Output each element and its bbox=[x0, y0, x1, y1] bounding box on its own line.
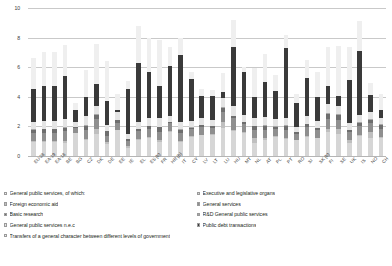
bar-segment bbox=[315, 138, 320, 156]
x-label-slot: EL bbox=[133, 158, 144, 184]
stacked-bar[interactable] bbox=[231, 20, 236, 156]
bar-segment bbox=[157, 40, 162, 86]
bar-segment bbox=[52, 121, 57, 128]
bar-segment bbox=[347, 132, 352, 139]
legend-left-item[interactable]: Transfers of a general character between… bbox=[4, 230, 195, 241]
bar-segment bbox=[115, 130, 120, 156]
stacked-bar[interactable] bbox=[305, 60, 310, 156]
stacked-bar[interactable] bbox=[73, 103, 78, 156]
bar-slot bbox=[102, 8, 113, 156]
stacked-bar[interactable] bbox=[284, 35, 289, 156]
bar-segment bbox=[305, 60, 310, 78]
x-label-slot: EA-19 bbox=[39, 158, 50, 184]
bar-slot bbox=[123, 8, 134, 156]
stacked-bar[interactable] bbox=[94, 44, 99, 156]
legend-label: R&D General public services bbox=[203, 211, 268, 217]
bar-segment bbox=[105, 101, 110, 125]
stacked-bar[interactable] bbox=[52, 52, 57, 156]
stacked-bar[interactable] bbox=[105, 61, 110, 156]
bar-segment bbox=[52, 86, 57, 122]
bar-segment bbox=[105, 144, 110, 156]
legend-left-item[interactable]: Basic research bbox=[4, 209, 195, 220]
stacked-bar[interactable] bbox=[210, 90, 215, 156]
stacked-bar[interactable] bbox=[242, 67, 247, 156]
legend-label: Public debt transactions bbox=[203, 222, 257, 228]
stacked-bar[interactable] bbox=[273, 75, 278, 156]
stacked-bar[interactable] bbox=[136, 26, 141, 156]
x-label-slot: PL bbox=[270, 158, 281, 184]
legend-label: Foreign economic aid bbox=[10, 201, 59, 207]
bar-slot bbox=[239, 8, 250, 156]
stacked-bar[interactable] bbox=[336, 46, 341, 156]
legend-right-item[interactable]: R&D General public services bbox=[197, 209, 388, 220]
x-label-slot: MT bbox=[239, 158, 250, 184]
bar-slot bbox=[175, 8, 186, 156]
bar-segment bbox=[336, 96, 341, 106]
x-label-slot: FR bbox=[154, 158, 165, 184]
stacked-bar[interactable] bbox=[294, 94, 299, 156]
stacked-bar[interactable] bbox=[379, 94, 384, 156]
stacked-bar[interactable] bbox=[178, 38, 183, 156]
bar-segment bbox=[178, 122, 183, 129]
stacked-bar[interactable] bbox=[368, 83, 373, 156]
bar-segment bbox=[199, 89, 204, 96]
bar-segment bbox=[273, 129, 278, 136]
bar-segment bbox=[326, 119, 331, 129]
bar-segment bbox=[63, 76, 68, 119]
stacked-bar[interactable] bbox=[189, 72, 194, 156]
stacked-bar[interactable] bbox=[42, 52, 47, 156]
stacked-bar[interactable] bbox=[168, 47, 173, 156]
bar-segment bbox=[368, 112, 373, 119]
legend-right-item[interactable]: General services bbox=[197, 199, 388, 210]
bar-slot bbox=[323, 8, 334, 156]
y-axis-tick-label: 10 bbox=[0, 5, 20, 11]
bar-slot bbox=[354, 8, 365, 156]
stacked-bar[interactable] bbox=[357, 21, 362, 156]
legend-left-item[interactable]: General public services n.e.c bbox=[4, 220, 195, 231]
bar-segment bbox=[284, 35, 289, 48]
legend-right-item[interactable]: Public debt transactions bbox=[197, 220, 388, 231]
bar-segment bbox=[147, 129, 152, 137]
plot-area: 0246810 bbox=[28, 8, 386, 156]
bar-segment bbox=[147, 138, 152, 156]
bar-segment bbox=[84, 116, 89, 125]
bar-segment bbox=[115, 123, 120, 130]
bar-segment bbox=[199, 127, 204, 135]
stacked-bar[interactable] bbox=[199, 89, 204, 156]
stacked-bar[interactable] bbox=[84, 70, 89, 156]
bar-slot bbox=[91, 8, 102, 156]
bar-segment bbox=[294, 134, 299, 141]
stacked-bar[interactable] bbox=[326, 47, 331, 156]
bar-slot bbox=[218, 8, 229, 156]
stacked-bar[interactable] bbox=[347, 47, 352, 156]
legend-swatch-icon bbox=[4, 202, 7, 205]
bar-segment bbox=[326, 86, 331, 104]
bar-segment bbox=[379, 138, 384, 156]
bar-segment bbox=[231, 20, 236, 47]
bar-slot bbox=[197, 8, 208, 156]
bar-segment bbox=[242, 115, 247, 122]
bar-segment bbox=[147, 118, 152, 125]
stacked-bar[interactable] bbox=[157, 40, 162, 156]
stacked-bar[interactable] bbox=[263, 54, 268, 156]
stacked-bar[interactable] bbox=[147, 38, 152, 156]
stacked-bar[interactable] bbox=[115, 94, 120, 156]
bar-segment bbox=[73, 110, 78, 122]
bar-segment bbox=[189, 129, 194, 136]
stacked-bar[interactable] bbox=[221, 73, 226, 156]
bar-segment bbox=[242, 124, 247, 133]
legend-left-item[interactable]: Foreign economic aid bbox=[4, 199, 195, 210]
stacked-bar[interactable] bbox=[252, 68, 257, 156]
stacked-bar[interactable] bbox=[31, 58, 36, 156]
stacked-bar[interactable] bbox=[63, 45, 68, 156]
x-label-slot: BG bbox=[70, 158, 81, 184]
bar-segment bbox=[147, 72, 152, 118]
bar-segment bbox=[189, 72, 194, 79]
bar-segment bbox=[136, 26, 141, 63]
x-label-slot: CZ bbox=[81, 158, 92, 184]
legend-left-item[interactable]: General public services, of which: bbox=[4, 188, 195, 199]
stacked-bar[interactable] bbox=[126, 81, 131, 156]
bar-slot bbox=[49, 8, 60, 156]
legend-right-item[interactable]: Executive and legislative organs bbox=[197, 188, 388, 199]
stacked-bar[interactable] bbox=[315, 72, 320, 156]
